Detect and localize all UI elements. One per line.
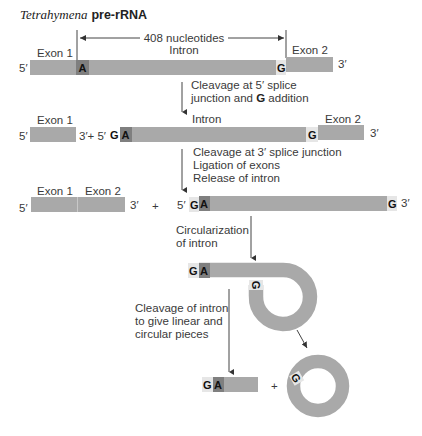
step2-text-line1: Cleavage at 3′ splice junction <box>193 146 342 158</box>
exon1-label: Exon 1 <box>37 185 73 197</box>
step4-text-line1: Cleavage of intron <box>135 302 228 314</box>
exon2-bar <box>286 57 333 72</box>
splicing-diagram: Tetrahymenapre-rRNA 408 nucleotides Exon… <box>0 0 422 436</box>
circular-product: G <box>289 362 343 411</box>
exon1-label: Exon 1 <box>37 114 73 126</box>
g-label: G <box>308 129 317 141</box>
a-label: A <box>200 265 208 277</box>
released-intron-bar <box>199 196 387 211</box>
circular-intron <box>294 362 343 411</box>
g-label: G <box>250 281 262 290</box>
pre-rrna-row: 408 nucleotides Exon 1 Intron Exon 2 5′ … <box>19 30 347 75</box>
five-prime-label: 5′ <box>19 130 28 142</box>
g-label: G <box>203 379 212 391</box>
exon2-label: Exon 2 <box>85 185 121 197</box>
added-g-label: G <box>110 129 119 141</box>
three-prime-label: 3′ <box>370 127 379 139</box>
step2-text-line2: Ligation of exons <box>193 159 280 171</box>
exon1-bar <box>30 127 76 142</box>
step1-text-line1: Cleavage at 5′ splice <box>191 79 297 91</box>
three-prime-label: 3′ <box>338 58 347 70</box>
step1-text-line2: junction and G addition <box>190 92 309 104</box>
diagram-title: Tetrahymenapre-rRNA <box>20 7 147 22</box>
exon1-intron-bar <box>30 60 286 75</box>
step3-text-line2: of intron <box>176 237 218 249</box>
a-label: A <box>214 379 222 391</box>
exon1-label: Exon 1 <box>37 47 73 59</box>
five-prime-label: 5′ <box>19 202 28 214</box>
three-prime-label: 3′ <box>401 197 410 209</box>
intron-label: Intron <box>192 113 221 125</box>
step3-text-line1: Circularization <box>176 224 249 236</box>
five-prime-label: 5′ <box>19 62 28 74</box>
step4-text-line2: to give linear and <box>135 315 223 327</box>
g-label: G <box>388 198 397 210</box>
a-label: A <box>200 198 208 210</box>
intron-bar <box>120 127 318 142</box>
three-plus-five-label: 3′+ 5′ <box>79 130 106 142</box>
a-label: A <box>122 129 130 141</box>
exon2-label: Exon 2 <box>292 44 328 56</box>
linear-product: G A <box>202 377 258 392</box>
five-prime-label: 5′ <box>177 199 186 211</box>
g-label: G <box>190 199 199 211</box>
ligated-exons-and-intron-row: Exon 1 Exon 2 5′ 3′ + 5′ G A G 3′ <box>19 185 410 214</box>
exon2-bar <box>318 125 364 140</box>
plus-sign: + <box>271 380 278 392</box>
plus-sign: + <box>152 200 159 212</box>
g-label: G <box>277 62 286 74</box>
intron-label: Intron <box>169 44 198 56</box>
a-label: A <box>79 62 87 74</box>
length-label: 408 nucleotides <box>144 32 225 44</box>
after-5prime-cleavage-row: Exon 1 Intron Exon 2 5′ 3′+ 5′ G A G 3′ <box>19 113 379 142</box>
three-prime-label: 3′ <box>130 199 139 211</box>
step4-text-line3: circular pieces <box>135 328 209 340</box>
g-label: G <box>189 265 198 277</box>
step2-text-line3: Release of intron <box>193 172 280 184</box>
circle-arrow <box>297 330 307 348</box>
exon2-label: Exon 2 <box>325 113 361 125</box>
